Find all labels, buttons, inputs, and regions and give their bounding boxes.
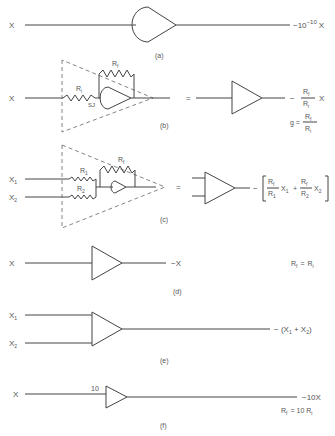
panel-c-input2-label: X2 [9,193,17,203]
panel-c-right-bracket [325,176,328,201]
panel-c-r1-label: R1 [80,167,88,176]
panel-c-equivalent-amplifier [205,172,235,204]
panel-c-caption: (c) [160,216,168,224]
panel-b-ri-label: Ri [76,85,82,94]
panel-c-term2-denominator: R2 [301,190,309,199]
panel-d: X −X Rf=Ri (d) [9,246,314,296]
panel-d-output-label: −X [171,259,182,268]
panel-c-equals: = [176,183,181,192]
panel-b-caption: (b) [160,122,169,130]
panel-f-gain-marker: 10 [91,385,99,392]
panel-b-output-numerator: Rf [303,88,310,97]
panel-e-caption: (e) [160,357,169,365]
panel-b-equivalent-amplifier [232,81,262,114]
panel-c-plus: + [293,185,297,192]
panel-b-gain-label: g = [290,119,300,127]
panel-c-input1-label: X1 [9,175,17,185]
panel-c-r2-label: R2 [77,185,85,194]
panel-b-gain-numerator: Rf [305,113,312,122]
panel-b-input-label: X [9,94,15,103]
panel-a-input-label: X [9,21,15,30]
panel-c-term1-denominator: R1 [268,190,276,199]
panel-e-input2-label: X2 [9,339,17,349]
panel-d-amplifier [92,246,122,280]
panel-a-output-label: −10−10X [293,19,325,30]
panel-f-input-label: X [13,390,19,399]
panel-b-rf-label: Rf [112,60,119,69]
panel-f-condition: Rf= 10 Ri [281,407,312,416]
high-gain-amplifier-symbol [132,7,176,42]
panel-b-gain-denominator: Ri [305,125,311,134]
panel-c-term1-numerator: Rf [268,178,275,187]
panel-c-term2-numerator: Rf [301,178,308,187]
panel-c-inner-amplifier [111,181,126,193]
panel-b-output-minus: − [290,94,295,103]
resistor-r2 [69,195,96,199]
panel-f-output-label: −10X [302,393,322,402]
panel-c-term1-var: X1 [281,185,289,194]
panel-a-caption: (a) [155,52,164,60]
panel-c-term2-var: X2 [314,185,322,194]
panel-f-caption: (f) [160,422,167,430]
panel-c-left-bracket [263,176,266,201]
panel-b-inner-amplifier [100,87,131,109]
resistor-rf-c [100,166,135,173]
resistor-rf [99,70,134,77]
amplifier-diagram-canvas: X −10−10X (a) X Ri SJ Rf = − Rf R [0,0,335,436]
panel-b-equals: = [186,94,191,103]
panel-f-amplifier [106,386,127,408]
resistor-r1 [69,177,96,181]
panel-e-output-label: − (X1 + X2) [274,325,312,335]
panel-f: X 10 −10X Rf= 10 Ri (f) [13,385,322,430]
panel-e-input1-label: X1 [9,311,17,321]
panel-a: X −10−10X (a) [9,7,325,60]
panel-b-output-denominator: Ri [303,100,309,109]
panel-d-input-label: X [9,259,15,268]
panel-e: X1 X2 − (X1 + X2) (e) [9,311,312,365]
panel-c-output-minus: − [253,184,258,193]
panel-c: X1 X2 R1 R2 Rf = − Rf R1 X1 + Rf R2 X2 [9,145,328,228]
panel-b-output-var: X [319,94,325,103]
panel-d-condition: Rf=Ri [291,260,314,269]
panel-e-amplifier [92,312,122,346]
summing-junction-label: SJ [88,102,95,108]
panel-d-caption: (d) [173,288,182,296]
panel-c-rf-label: Rf [118,156,125,165]
resistor-ri [63,95,98,101]
panel-b: X Ri SJ Rf = − Rf Ri X g = Rf Ri (b) [9,60,325,134]
